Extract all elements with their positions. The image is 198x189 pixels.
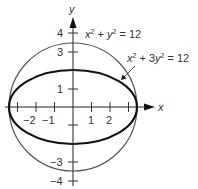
y-tick-label: −4 — [50, 175, 63, 187]
x-tick-label: 1 — [88, 114, 94, 126]
ellipse-circle-diagram: y x −2 −1 1 2 4 3 1 −3 −4 x2 + y2 = 12 x… — [0, 0, 198, 189]
circle-equation-label: x2 + y2 = 12 — [84, 28, 141, 40]
x-axis-arrow-icon — [144, 104, 155, 111]
y-tick-label: 4 — [57, 27, 63, 39]
y-tick-label: 3 — [57, 46, 63, 58]
y-axis-label: y — [68, 3, 76, 15]
x-tick-label: −1 — [42, 114, 55, 126]
x-tick-label: 2 — [106, 114, 112, 126]
x-tick-label: −2 — [23, 114, 36, 126]
y-axis-arrow-icon — [70, 17, 77, 28]
y-tick-label: −3 — [50, 156, 63, 168]
x-axis-label: x — [157, 101, 164, 113]
y-tick-label: 1 — [57, 83, 63, 95]
ellipse-equation-label: x2 + 3y2 = 12 — [126, 52, 189, 64]
